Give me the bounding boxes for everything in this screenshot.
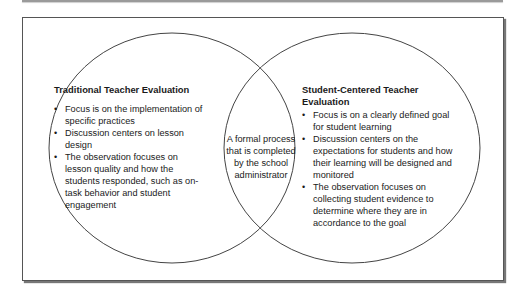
list-item: Discussion centers on lesson design [65, 127, 204, 151]
list-item: The observation focuses on collecting st… [313, 181, 462, 229]
list-item: The observation focuses on lesson qualit… [65, 151, 204, 211]
right-set-list: Focus is on a clearly defined goal for s… [302, 109, 462, 229]
right-set: Student-Centered Teacher Evaluation Focu… [302, 84, 462, 229]
list-item: Focus is on the implementation of specif… [65, 103, 204, 127]
left-set-title: Traditional Teacher Evaluation [54, 84, 204, 96]
list-item: Discussion centers on the expectations f… [313, 133, 462, 181]
left-set-list: Focus is on the implementation of specif… [54, 103, 204, 211]
list-item: Focus is on a clearly defined goal for s… [313, 109, 462, 133]
overlap-text: A formal process that is completed by th… [223, 133, 299, 181]
right-set-title: Student-Centered Teacher Evaluation [302, 84, 462, 108]
left-set: Traditional Teacher Evaluation Focus is … [54, 84, 204, 211]
